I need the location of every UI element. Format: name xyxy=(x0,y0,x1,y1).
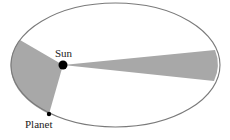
sun-label: Sun xyxy=(55,47,73,59)
sun-icon xyxy=(59,61,68,70)
swept-area-right xyxy=(63,50,218,81)
planet-label: Planet xyxy=(25,118,53,130)
planet-icon xyxy=(47,112,51,116)
kepler-second-law-diagram: Sun Planet xyxy=(0,0,230,140)
